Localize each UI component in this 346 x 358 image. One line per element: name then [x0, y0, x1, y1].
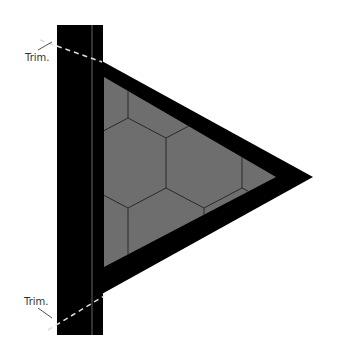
bottom-trim-label: Trim. — [24, 296, 48, 307]
flag-graphic — [0, 0, 346, 358]
top-trim-leader — [38, 42, 52, 50]
pole — [57, 25, 103, 335]
bottom-trim-leader — [38, 308, 52, 318]
flag-diagram: Trim. Trim. — [0, 0, 346, 358]
top-trim-label: Trim. — [25, 52, 49, 63]
